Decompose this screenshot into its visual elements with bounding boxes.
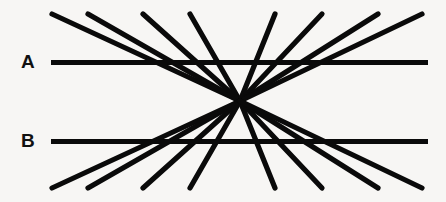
illusion-canvas xyxy=(0,0,446,202)
radial-line-3 xyxy=(143,14,240,101)
radial-line-1 xyxy=(52,14,240,101)
line-label-b: B xyxy=(21,131,35,150)
radial-lines-group xyxy=(52,14,422,188)
line-label-a: A xyxy=(21,52,35,71)
radial-line-9 xyxy=(52,101,240,188)
hering-illusion-figure: A B xyxy=(0,0,446,202)
radial-line-11 xyxy=(143,101,240,188)
